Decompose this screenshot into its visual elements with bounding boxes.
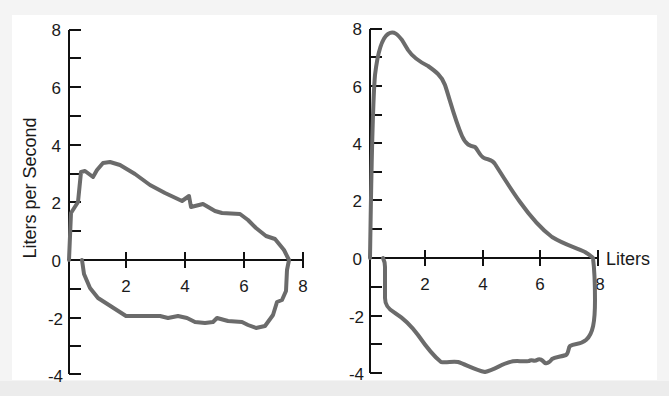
tick-label: -2 — [349, 308, 364, 327]
right-x-axis — [370, 250, 598, 266]
y-axis-title: Liters per Second — [20, 117, 40, 258]
tick-label: 6 — [239, 277, 248, 296]
right-y-tick-labels: 8 6 4 2 0 -2 -4 — [349, 20, 364, 384]
tick-label: 2 — [420, 275, 429, 294]
left-x-tick-labels: 2 4 6 8 — [121, 277, 307, 296]
tick-label: 0 — [52, 252, 61, 271]
tick-label: -4 — [48, 367, 63, 386]
tick-label: 4 — [353, 135, 362, 154]
tick-label: 4 — [180, 277, 189, 296]
tick-label: -2 — [48, 310, 63, 329]
left-y-tick-labels: 8 6 4 2 0 -2 -4 — [48, 21, 63, 386]
tick-label: 2 — [353, 192, 362, 211]
tick-label: 8 — [353, 20, 362, 39]
left-flow-volume-loop — [69, 162, 289, 328]
tick-label: 8 — [52, 21, 61, 40]
right-flow-volume-loop — [370, 33, 595, 372]
tick-label: 0 — [353, 250, 362, 269]
tick-label: 4 — [52, 137, 61, 156]
left-chart: 8 6 4 2 0 -2 -4 2 4 6 8 — [48, 21, 308, 386]
tick-label: 4 — [478, 275, 487, 294]
tick-label: 6 — [353, 78, 362, 97]
left-x-axis — [69, 252, 303, 268]
flow-volume-figure: Liters per Second 8 6 — [0, 0, 669, 396]
tick-label: -4 — [349, 365, 364, 384]
right-x-tick-labels: 2 4 6 8 — [420, 275, 604, 294]
tick-label: 8 — [298, 277, 307, 296]
tick-label: 2 — [52, 194, 61, 213]
tick-label: 6 — [52, 79, 61, 98]
right-chart: 8 6 4 2 0 -2 -4 2 4 6 8 Liters — [349, 20, 650, 384]
tick-label: 2 — [121, 277, 130, 296]
x-axis-title: Liters — [606, 249, 650, 269]
tick-label: 6 — [535, 275, 544, 294]
